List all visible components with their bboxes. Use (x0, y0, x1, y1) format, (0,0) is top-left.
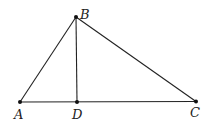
point-c-dot (194, 100, 198, 104)
segment-bc (76, 17, 196, 102)
triangle-diagram: A B C D (0, 0, 211, 132)
segment-ab (20, 17, 76, 102)
segment-bd (76, 17, 77, 102)
segment-ac (20, 102, 196, 103)
label-b: B (79, 7, 90, 22)
point-d-dot (75, 100, 79, 104)
label-c: C (190, 105, 200, 120)
point-a-dot (18, 100, 22, 104)
label-d: D (71, 107, 83, 122)
point-b-dot (74, 15, 78, 19)
label-a: A (13, 107, 23, 122)
